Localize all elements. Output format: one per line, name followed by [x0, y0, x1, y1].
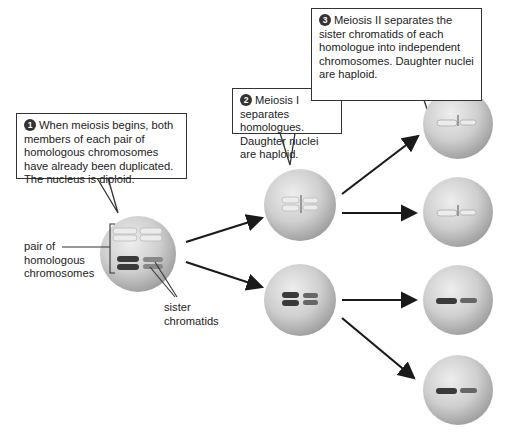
step-number-badge: 1: [24, 119, 36, 131]
homologous-pair-label: pair of homologous chromosomes: [24, 240, 102, 281]
parent-cell: [100, 216, 176, 292]
meiosis1-top-cell: [264, 169, 336, 241]
callout-text: Meiosis II separates the sister chromati…: [319, 14, 474, 80]
arrow-icon: [342, 136, 418, 194]
meiosis2-cell-3: [423, 265, 493, 335]
callout-text: When meiosis begins, both members of eac…: [24, 119, 173, 185]
arrow-icon: [186, 218, 262, 242]
meiosis2-cell-4: [423, 355, 493, 425]
step-number-badge: 2: [240, 94, 252, 106]
meiosis2-cell-2: [423, 177, 493, 247]
callout-step-1: 1When meiosis begins, both members of ea…: [16, 113, 187, 179]
arrow-icon: [186, 262, 262, 287]
meiosis1-bottom-cell: [264, 264, 336, 336]
arrow-icon: [342, 318, 414, 378]
callout-step-3: 3Meiosis II separates the sister chromat…: [311, 8, 482, 101]
sister-chromatids-label: sister chromatids: [164, 301, 224, 328]
step-number-badge: 3: [319, 14, 331, 26]
